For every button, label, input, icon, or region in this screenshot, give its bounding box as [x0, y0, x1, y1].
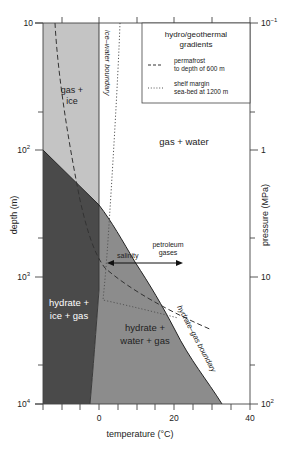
y-ticks-left: [35, 23, 43, 404]
phase-diagram: 0 20 40 temperature (°C) 10 102 103 104 …: [0, 0, 284, 451]
label-ice-water-boundary: ice–water boundary: [103, 30, 112, 97]
ytick-10000: 104: [17, 398, 30, 409]
y2tick-100: 102: [261, 398, 274, 409]
ytick-100: 102: [17, 144, 30, 155]
y-axis-label: depth (m): [9, 196, 19, 235]
x-ticks-top: [62, 17, 250, 23]
x-axis-label: temperature (°C): [106, 429, 173, 439]
xtick-20: 20: [169, 413, 179, 423]
y-ticks-right: [250, 23, 258, 404]
ytick-10: 10: [24, 18, 34, 28]
xtick-0: 0: [97, 413, 102, 423]
xtick-40: 40: [245, 413, 255, 423]
label-salinity: salinity: [117, 252, 139, 260]
y2tick-1: 1: [261, 145, 266, 155]
legend: hydro/geothermalgradients permafrostto d…: [142, 23, 250, 103]
y2tick-10: 10: [261, 272, 271, 282]
ytick-1000: 103: [17, 271, 30, 282]
x-ticks-bottom: [43, 404, 250, 410]
label-gas-water: gas + water: [159, 136, 208, 147]
y2tick-01: 10−1: [261, 17, 278, 28]
y2-axis-label: pressure (MPa): [260, 184, 270, 246]
